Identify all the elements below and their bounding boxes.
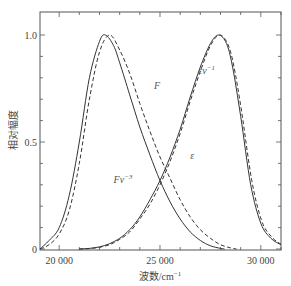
y-tick-label: 1.0 — [25, 30, 38, 41]
x-tick-label: 20 000 — [45, 255, 73, 266]
x-axis: 20 00025 00030 000 — [45, 12, 281, 266]
curve-solid — [40, 35, 225, 249]
curve-label: ε — [190, 150, 194, 161]
curves — [40, 35, 281, 249]
curve-label: F — [153, 80, 161, 91]
y-axis: 00.51.0 — [25, 30, 282, 255]
plot-border — [40, 12, 281, 250]
spectra-chart: 20 00025 00030 000 00.51.0 Fεν−1Fν−3ε 波数… — [0, 0, 291, 286]
curve-solid — [79, 35, 281, 249]
y-tick-label: 0 — [32, 244, 37, 255]
curve-label: εν−1 — [198, 64, 215, 76]
x-tick-label: 30 000 — [247, 255, 275, 266]
y-tick-label: 0.5 — [25, 137, 38, 148]
curve-label: Fν−3 — [113, 173, 133, 185]
curve-dashed — [79, 35, 281, 249]
x-tick-label: 25 000 — [146, 255, 174, 266]
curve-labels: Fεν−1Fν−3ε — [113, 64, 215, 185]
x-axis-label: 波数/cm−1 — [139, 270, 182, 282]
plot-frame — [40, 12, 281, 250]
y-axis-label: 相对幅度 — [7, 110, 19, 150]
